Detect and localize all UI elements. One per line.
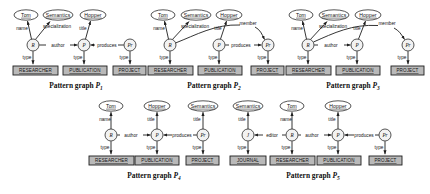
edge-label: title [79,26,87,31]
edge-label: type [328,145,337,150]
edge-title-p: title [147,112,157,129]
edge-label: author [51,43,65,48]
value-node-semantics: Semantics [43,10,73,20]
entity-node-pr: Pr [197,129,209,141]
class-node-label: PUBLICATION [141,158,172,163]
value-node-tom: Tom [99,101,123,111]
pattern-graph-p5: Semantics Tom Hopper J R P Pr JOURNAL [230,101,402,181]
edge-path [303,21,307,39]
value-node-hopper: Hopper [216,10,242,20]
value-node-hopper: Hopper [80,10,106,20]
edge-label: produces [354,133,374,138]
class-node-project: PROJECT [113,66,146,75]
edge-label: type [375,145,384,150]
value-node-label: Semantics [46,12,71,18]
edge-label: type [238,145,247,150]
graph-caption: Pattern graph P5 [286,171,340,181]
edge-label: produces [97,43,117,48]
value-node-label: Tom [296,12,306,18]
edge-type-journal: type [238,141,248,154]
class-node-researcher: RESEARCHER [13,66,58,75]
edge-type-project: type [398,51,408,64]
value-node-label: Hopper [84,12,102,18]
edge-label: specialization [43,24,72,29]
class-node-label: PROJECT [118,68,140,73]
graph-caption: Pattern graph P3 [326,81,380,91]
edge-label: author [124,133,138,138]
edge-label: type [298,55,307,60]
class-node-project: PROJECT [251,66,284,75]
entity-node-label: Pr [381,132,388,138]
edge-label: type [347,55,356,60]
edge-label: type [23,55,32,60]
entity-node-label: Pr [126,42,133,48]
edge-label: member [239,21,257,26]
class-node-label: PUBLICATION [342,68,373,73]
edge-type-project: type [375,141,385,154]
entity-node-r: R [164,39,176,51]
edge-path [28,21,32,39]
entity-node-p: P [213,39,225,51]
edge-editor: editor [255,133,286,138]
value-node-label: Hopper [148,103,166,109]
edge-label: type [209,55,218,60]
value-node-tom: Tom [151,10,175,20]
edge-produces: produces [225,43,261,48]
edge-produces: produces [164,133,197,138]
graph-caption: Pattern graph P4 [127,171,181,181]
edge-label: type [147,145,156,150]
edge-type-project: type [258,51,268,64]
pattern-graphs-figure: Tom Semantics Hopper R P Pr RESEARCHER [0,0,430,194]
edge-title-j: title [238,112,248,129]
edge-label: name [99,117,111,122]
value-node-tom: Tom [280,101,304,111]
value-node-label: Hopper [359,12,377,18]
entity-node-label: Pr [264,42,271,48]
edge-label: specialization [181,24,210,29]
edge-name: name [280,112,292,129]
graph-canvas: Tom Semantics Hopper R P Pr RESEARCHER [0,0,430,194]
class-node-publication: PUBLICATION [198,66,242,75]
edge-type-researcher: type [101,141,111,154]
edge-label: name [16,26,28,31]
class-node-researcher: RESEARCHER [89,156,134,165]
edge-label: title [193,117,201,122]
class-node-label: RESEARCHER [276,158,309,163]
edge-type-publication: type [328,141,338,154]
edge-specialization: specialization [36,22,72,40]
edge-title: title [79,21,90,39]
edge-type-publication: type [147,141,157,154]
edge-name: name [153,21,168,39]
edge-author: author [314,43,350,48]
edge-label: produces [231,43,251,48]
edge-label: title [147,117,155,122]
class-node-label: PUBLICATION [69,68,100,73]
class-node-label: RESEARCHER [154,68,187,73]
edge-type-publication: type [74,51,84,64]
graph-caption: Pattern graph P1 [49,81,103,91]
class-node-label: JOURNAL [237,158,259,163]
entity-node-pr: Pr [124,39,136,51]
edge-title: title [353,21,365,39]
edge-author: author [39,43,77,48]
edge-label: type [101,145,110,150]
edge-type-project: type [193,141,203,154]
edge-type-publication: type [209,51,219,64]
entity-node-r: R [302,39,314,51]
class-node-label: PROJECT [396,68,418,73]
edge-path [165,21,169,39]
edge-label: specialization [319,24,348,29]
class-node-label: PUBLICATION [323,158,354,163]
edge-label: editor [266,133,278,138]
edge-type-researcher: type [298,51,308,64]
entity-node-j: J [242,129,254,141]
class-node-label: PROJECT [191,158,213,163]
value-node-label: Semantics [191,103,216,109]
edge-label: type [282,145,291,150]
edge-type-researcher: type [160,51,170,64]
entity-node-label: Pr [199,132,206,138]
class-node-publication: PUBLICATION [135,156,179,165]
value-node-label: Tom [287,103,297,109]
class-node-project: PROJECT [186,156,219,165]
edge-title-pr: title [193,112,203,129]
